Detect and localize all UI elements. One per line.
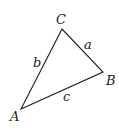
triangle-diagram: C B A a b c — [0, 0, 119, 136]
vertex-label-b: B — [105, 73, 116, 88]
vertex-label-a: A — [9, 109, 19, 124]
side-label-a: a — [84, 37, 92, 52]
side-label-c: c — [63, 89, 71, 104]
side-label-b: b — [33, 55, 41, 70]
vertex-label-c: C — [56, 12, 66, 27]
